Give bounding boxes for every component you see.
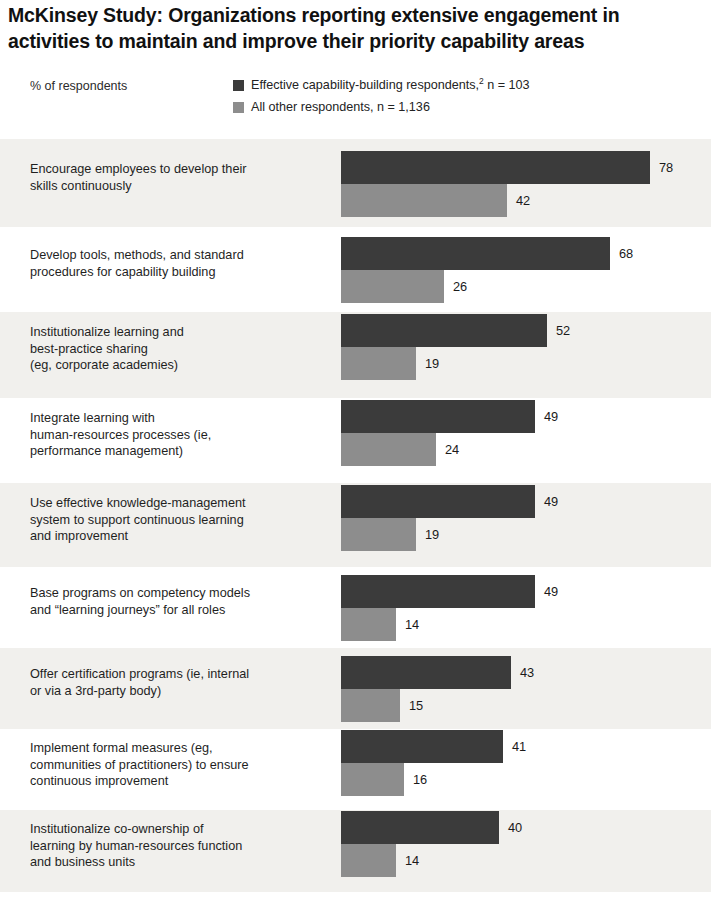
bar-value-label: 26: [453, 279, 467, 294]
chart-row-label: Develop tools, methods, and standardproc…: [30, 247, 330, 280]
bar-value-label: 49: [544, 409, 558, 424]
bar-line: 19: [341, 518, 558, 551]
chart-row: Institutionalize co-ownership oflearning…: [0, 810, 711, 892]
bar-value-label: 41: [512, 739, 526, 754]
bar-primary[interactable]: [341, 485, 535, 518]
bar-secondary[interactable]: [341, 844, 396, 877]
chart-row-label: Use effective knowledge-managementsystem…: [30, 495, 330, 545]
chart-row-bars: 4116: [341, 730, 526, 796]
chart-row-label: Institutionalize learning andbest-practi…: [30, 324, 330, 374]
chart-row-label: Institutionalize co-ownership oflearning…: [30, 821, 330, 871]
chart-row-label-line: performance management): [30, 443, 330, 460]
axis-note: % of respondents: [30, 79, 127, 93]
chart-row-label: Offer certification programs (ie, intern…: [30, 666, 330, 699]
chart-row-label: Implement formal measures (eg,communitie…: [30, 740, 330, 790]
bar-secondary[interactable]: [341, 270, 444, 303]
bar-value-label: 68: [619, 246, 633, 261]
chart-row-label-line: Offer certification programs (ie, intern…: [30, 666, 330, 683]
bar-value-label: 14: [405, 617, 419, 632]
chart-row-label-line: (eg, corporate academies): [30, 357, 330, 374]
bar-secondary[interactable]: [341, 518, 416, 551]
bar-primary[interactable]: [341, 811, 499, 844]
chart-row: Encourage employees to develop theirskil…: [0, 139, 711, 227]
chart-row-bars: 5219: [341, 314, 570, 380]
legend-item: All other respondents, n = 1,136: [233, 100, 703, 117]
bar-value-label: 14: [405, 853, 419, 868]
bar-primary[interactable]: [341, 730, 503, 763]
bar-line: 19: [341, 347, 570, 380]
bar-primary[interactable]: [341, 314, 547, 347]
bar-value-label: 19: [425, 527, 439, 542]
bar-value-label: 42: [516, 193, 530, 208]
chart-row: Use effective knowledge-managementsystem…: [0, 483, 711, 567]
bar-value-label: 49: [544, 494, 558, 509]
bar-line: 49: [341, 400, 558, 433]
chart-row-label-line: and business units: [30, 854, 330, 871]
chart-row: Base programs on competency modelsand “l…: [0, 567, 711, 648]
bar-value-label: 52: [556, 323, 570, 338]
chart-row-label-line: and improvement: [30, 528, 330, 545]
chart-row-bars: 4014: [341, 811, 522, 877]
chart-row-label-line: Base programs on competency models: [30, 585, 330, 602]
bar-line: 26: [341, 270, 633, 303]
chart-row-label: Base programs on competency modelsand “l…: [30, 585, 330, 618]
bar-line: 16: [341, 763, 526, 796]
bar-value-label: 15: [409, 698, 423, 713]
chart-row-bars: 4919: [341, 485, 558, 551]
chart-row-label-line: skills continuously: [30, 178, 330, 195]
bar-primary[interactable]: [341, 575, 535, 608]
legend-footnote-marker: 2: [479, 76, 484, 86]
bar-secondary[interactable]: [341, 433, 436, 466]
bar-value-label: 78: [659, 160, 673, 175]
bar-primary[interactable]: [341, 400, 535, 433]
bar-line: 68: [341, 237, 633, 270]
chart-row-label: Encourage employees to develop theirskil…: [30, 161, 330, 194]
chart-row-label-line: procedures for capability building: [30, 264, 330, 281]
chart-row-label-line: continuous improvement: [30, 773, 330, 790]
bar-secondary[interactable]: [341, 689, 400, 722]
bar-line: 43: [341, 656, 534, 689]
bar-value-label: 16: [413, 772, 427, 787]
chart-row-label-line: or via a 3rd-party body): [30, 683, 330, 700]
chart-row-label-line: Use effective knowledge-management: [30, 495, 330, 512]
page-title: McKinsey Study: Organizations reporting …: [8, 3, 703, 55]
bar-line: 40: [341, 811, 522, 844]
chart-row-bars: 4315: [341, 656, 534, 722]
chart-legend: Effective capability-building respondent…: [233, 78, 703, 122]
bar-secondary[interactable]: [341, 608, 396, 641]
chart-row: Offer certification programs (ie, intern…: [0, 648, 711, 729]
chart-row-label-line: Integrate learning with: [30, 410, 330, 427]
chart-row-label-line: and “learning journeys” for all roles: [30, 602, 330, 619]
bar-line: 15: [341, 689, 534, 722]
bar-value-label: 19: [425, 356, 439, 371]
bar-line: 49: [341, 485, 558, 518]
chart-row: Institutionalize learning andbest-practi…: [0, 312, 711, 398]
bar-line: 14: [341, 844, 522, 877]
chart-row-label: Integrate learning withhuman-resources p…: [30, 410, 330, 460]
bar-secondary[interactable]: [341, 184, 507, 217]
bar-value-label: 24: [445, 442, 459, 457]
bar-primary[interactable]: [341, 656, 511, 689]
bar-value-label: 43: [520, 665, 534, 680]
bar-line: 52: [341, 314, 570, 347]
chart-row-label-line: human-resources processes (ie,: [30, 427, 330, 444]
chart-row-bars: 4914: [341, 575, 558, 641]
bar-secondary[interactable]: [341, 347, 416, 380]
chart-row-label-line: learning by human-resources function: [30, 838, 330, 855]
legend-item: Effective capability-building respondent…: [233, 78, 703, 95]
legend-item-label: Effective capability-building respondent…: [251, 78, 530, 93]
legend-swatch-secondary: [233, 102, 244, 113]
chart-row: Implement formal measures (eg,communitie…: [0, 729, 711, 810]
bar-secondary[interactable]: [341, 763, 404, 796]
bar-primary[interactable]: [341, 151, 650, 184]
chart-row: Develop tools, methods, and standardproc…: [0, 227, 711, 312]
bar-primary[interactable]: [341, 237, 610, 270]
bar-line: 14: [341, 608, 558, 641]
bar-line: 41: [341, 730, 526, 763]
chart-row-bars: 4924: [341, 400, 558, 466]
bar-value-label: 49: [544, 584, 558, 599]
chart-row-label-line: communities of practitioners) to ensure: [30, 757, 330, 774]
bar-line: 42: [341, 184, 673, 217]
bar-value-label: 40: [508, 820, 522, 835]
chart-row-label-line: Implement formal measures (eg,: [30, 740, 330, 757]
